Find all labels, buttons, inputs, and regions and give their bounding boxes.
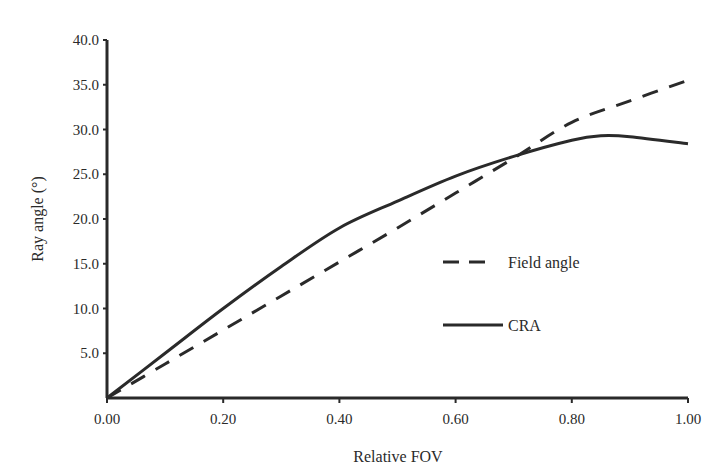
x-tick-label: 0.60 [442, 411, 468, 427]
legend-label-field-angle: Field angle [508, 254, 580, 272]
y-tick-label: 40.0 [73, 32, 99, 48]
tick-labels: 0.000.200.400.600.801.005.010.015.020.02… [73, 32, 701, 427]
series-line-field-angle [107, 80, 688, 398]
legend: Field angle CRA [443, 254, 580, 334]
y-tick-label: 35.0 [73, 77, 99, 93]
y-tick-label: 15.0 [73, 256, 99, 272]
y-axis-title: Ray angle (°) [29, 176, 47, 261]
series-line-cra [107, 135, 688, 398]
legend-label-cra: CRA [508, 317, 541, 334]
x-tick-label: 0.20 [210, 411, 236, 427]
y-tick-label: 25.0 [73, 166, 99, 182]
x-axis-title: Relative FOV [353, 448, 443, 465]
x-tick-label: 0.40 [326, 411, 352, 427]
y-tick-label: 30.0 [73, 122, 99, 138]
chart: 0.000.200.400.600.801.005.010.015.020.02… [0, 0, 705, 476]
y-tick-label: 5.0 [80, 345, 99, 361]
x-tick-label: 0.80 [559, 411, 585, 427]
x-tick-label: 1.00 [675, 411, 701, 427]
y-tick-label: 10.0 [73, 301, 99, 317]
series-group [107, 80, 688, 398]
y-tick-label: 20.0 [73, 211, 99, 227]
x-tick-label: 0.00 [94, 411, 120, 427]
